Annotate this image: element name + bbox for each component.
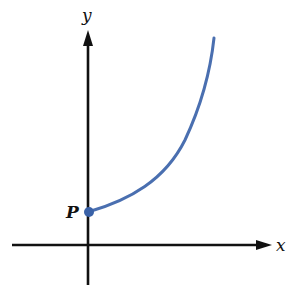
graph: y x P (0, 0, 302, 294)
curve (88, 38, 214, 212)
y-axis-label: y (81, 5, 92, 25)
point-p (84, 207, 94, 217)
x-axis-arrowhead (256, 240, 272, 250)
x-axis-label: x (276, 235, 286, 255)
point-p-label: P (65, 202, 80, 222)
y-axis-arrowhead (83, 30, 93, 46)
